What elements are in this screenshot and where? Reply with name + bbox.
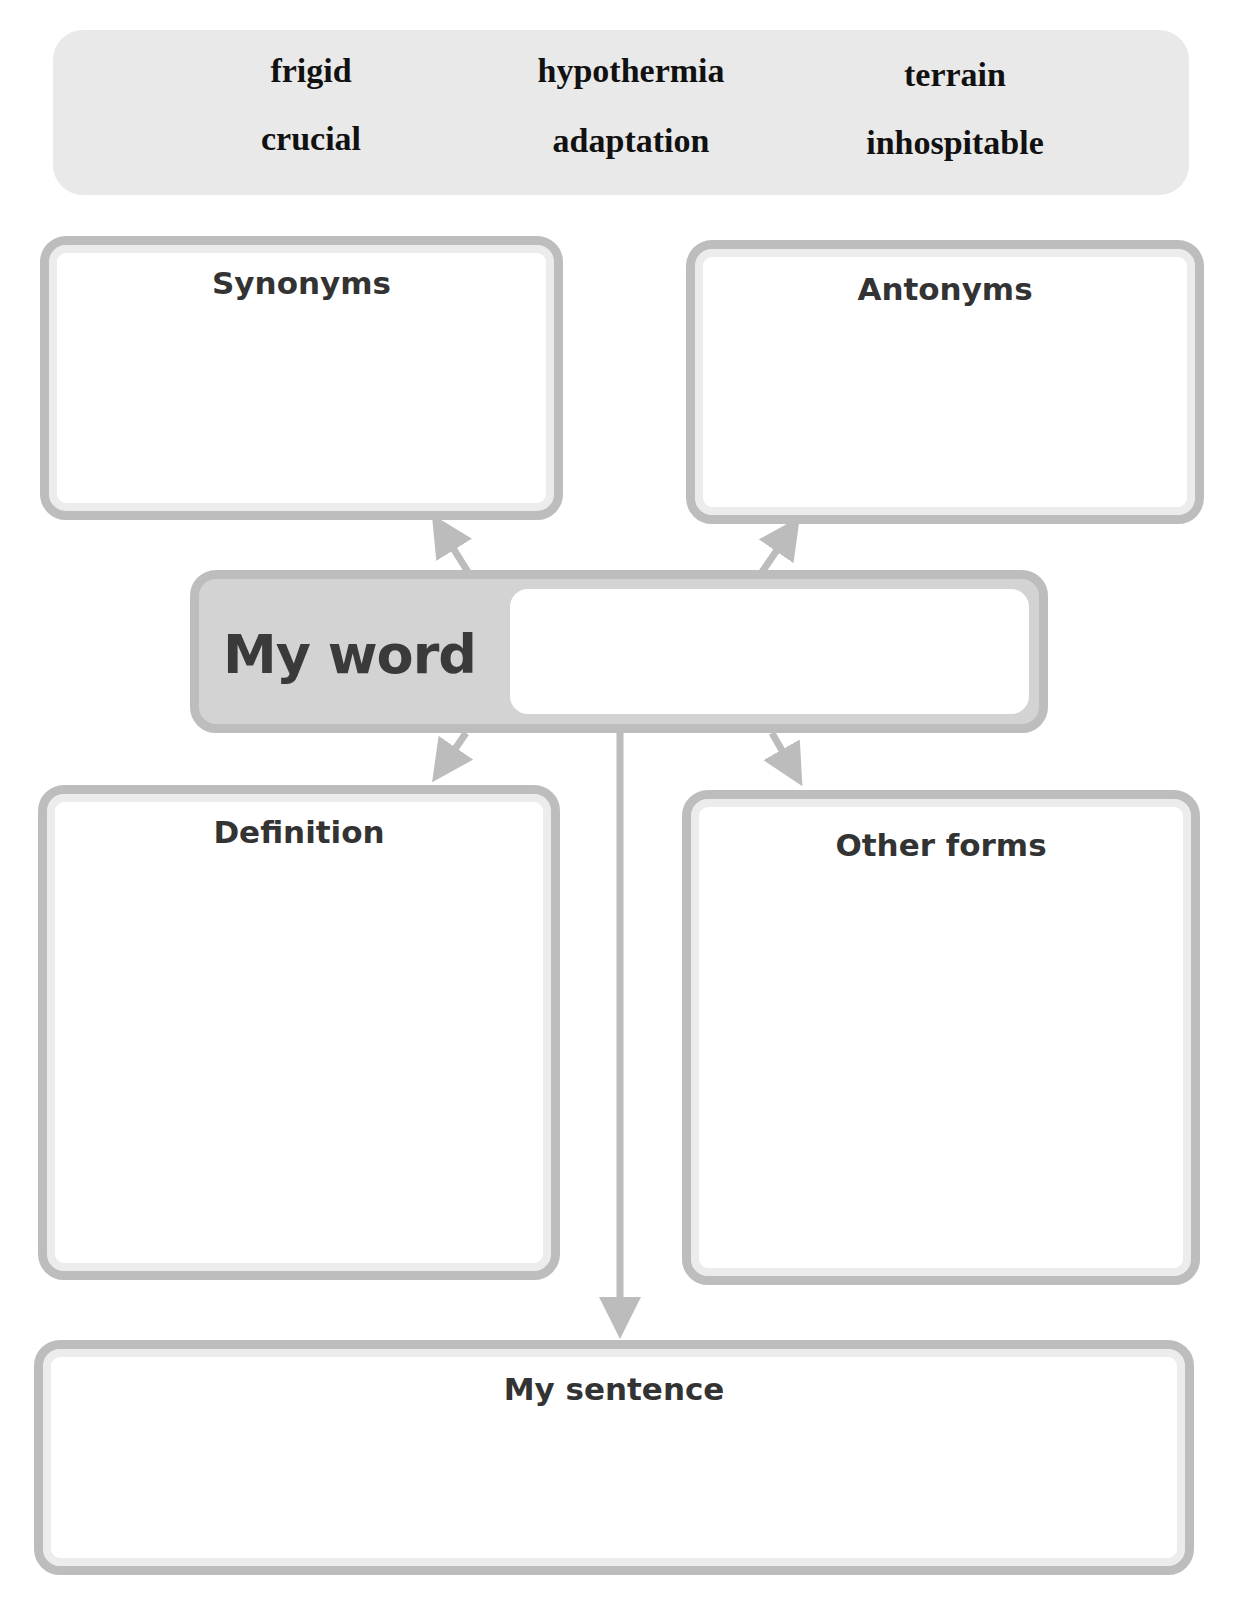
antonyms-box[interactable]: Antonyms — [686, 240, 1204, 524]
arrow-to-synonyms-icon — [443, 532, 468, 572]
synonyms-box[interactable]: Synonyms — [40, 236, 563, 520]
my-word-label: My word — [223, 623, 476, 686]
arrow-to-other-forms-icon — [772, 733, 792, 768]
synonyms-title: Synonyms — [49, 265, 554, 301]
definition-title: Definition — [47, 814, 551, 850]
my-sentence-title: My sentence — [43, 1371, 1185, 1407]
my-sentence-box[interactable]: My sentence — [34, 1340, 1194, 1575]
other-forms-box[interactable]: Other forms — [682, 790, 1200, 1285]
my-word-panel: My word — [190, 570, 1048, 733]
antonyms-title: Antonyms — [695, 271, 1195, 307]
my-word-input[interactable] — [510, 589, 1029, 714]
other-forms-title: Other forms — [691, 827, 1191, 863]
definition-box[interactable]: Definition — [38, 785, 560, 1280]
arrow-to-definition-icon — [444, 733, 466, 765]
arrow-to-antonyms-icon — [762, 534, 788, 572]
